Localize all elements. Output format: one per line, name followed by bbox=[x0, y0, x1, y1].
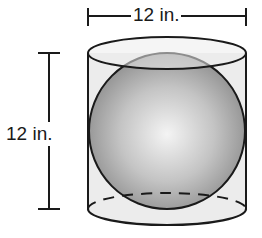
sphere-in-cylinder-diagram bbox=[0, 0, 262, 238]
sphere bbox=[89, 53, 245, 209]
height-dimension-label: 12 in. bbox=[6, 122, 52, 146]
width-dimension-label: 12 in. bbox=[131, 5, 181, 25]
cylinder-top-ellipse bbox=[88, 37, 246, 69]
